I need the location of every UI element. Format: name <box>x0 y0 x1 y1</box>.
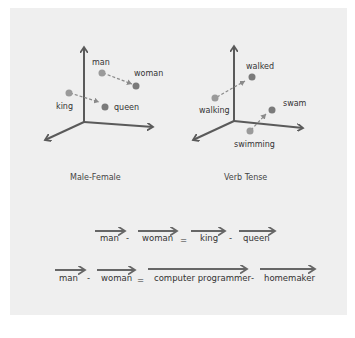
point-queen <box>102 104 109 111</box>
point-walking <box>212 95 219 102</box>
label-woman: woman <box>134 69 163 78</box>
caption-male-female: Male-Female <box>70 173 121 182</box>
term-queen: queen <box>243 233 270 243</box>
label-swam: swam <box>283 99 307 108</box>
term-minus: - <box>229 233 232 243</box>
term-equals: = <box>137 275 144 285</box>
point-swam <box>269 107 276 114</box>
caption-verb-tense: Verb Tense <box>224 173 267 182</box>
vector-arrows-icon <box>55 269 315 270</box>
term-man: man <box>100 233 119 243</box>
label-man: man <box>92 58 110 67</box>
term-minus: - <box>87 273 90 283</box>
point-woman <box>133 83 140 90</box>
term-woman: woman <box>101 273 132 283</box>
label-walked: walked <box>246 62 274 71</box>
point-walked <box>249 74 256 81</box>
point-swimming <box>247 128 254 135</box>
term-woman: woman <box>142 233 173 243</box>
label-swimming: swimming <box>234 140 275 149</box>
male-female-diagram: man woman king queen Male-Female <box>45 47 163 182</box>
word-embedding-diagram: man woman king queen Male-Female walked … <box>0 0 355 338</box>
verb-tense-diagram: walked walking swam swimming Verb Tense <box>193 46 307 182</box>
term-computer-programmer: computer programmer <box>154 273 251 283</box>
term-homemaker: homemaker <box>264 273 315 283</box>
term-king: king <box>200 233 218 243</box>
equation-2: man - woman = computer programmer - home… <box>55 269 315 285</box>
point-king <box>66 90 73 97</box>
term-minus: - <box>126 233 129 243</box>
label-queen: queen <box>114 103 139 112</box>
term-equals: = <box>180 235 187 245</box>
equation-1: man - woman = king - queen <box>95 231 275 245</box>
term-minus: - <box>251 273 254 283</box>
point-man <box>99 70 106 77</box>
label-walking: walking <box>199 106 230 115</box>
label-king: king <box>56 102 73 111</box>
term-man: man <box>59 273 78 283</box>
axes-icon <box>193 46 303 140</box>
